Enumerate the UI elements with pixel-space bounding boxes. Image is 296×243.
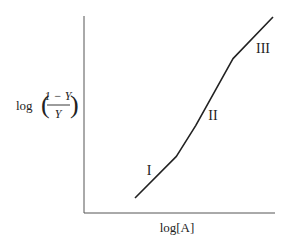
x-axis-label: log[A] [160,220,195,235]
y-axis-label: log ( 1 − Y Y ) [16,89,79,121]
y-label-numerator: 1 − Y [45,89,73,103]
y-label-prefix: log [16,98,33,113]
region-label-II: II [208,108,218,123]
y-label-denominator: Y [55,107,63,121]
data-line [135,17,273,198]
chart: I II III log[A] log ( 1 − Y Y ) [0,0,296,243]
region-label-I: I [147,163,152,178]
y-label-close-paren: ) [70,90,79,119]
region-label-III: III [256,41,270,56]
